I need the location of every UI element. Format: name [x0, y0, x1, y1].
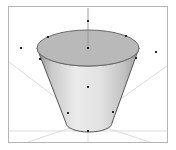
marker-free-right[interactable] — [155, 51, 157, 53]
marker-top-center[interactable] — [87, 47, 89, 49]
scene-canvas[interactable] — [0, 0, 176, 150]
marker-free-left[interactable] — [20, 47, 22, 49]
marker-top-rim-right[interactable] — [125, 35, 127, 37]
marker-top-rim-lleft[interactable] — [39, 58, 41, 60]
marker-body-center[interactable] — [87, 86, 89, 88]
marker-base-bottom[interactable] — [87, 130, 89, 132]
marker-top-rim-rright[interactable] — [135, 57, 137, 59]
marker-top-rim-left[interactable] — [47, 36, 49, 38]
marker-base-right[interactable] — [112, 111, 114, 113]
marker-base-left[interactable] — [67, 112, 69, 114]
cone-viewport[interactable] — [0, 0, 176, 150]
marker-axis-top[interactable] — [87, 20, 89, 22]
